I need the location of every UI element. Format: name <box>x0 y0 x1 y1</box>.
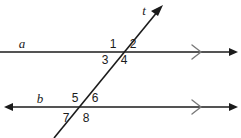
line-b-arrowhead-right <box>229 103 238 111</box>
angle-label-6: 6 <box>92 91 99 105</box>
angle-label-1: 1 <box>110 37 117 51</box>
figure-canvas: a b t 1 2 3 4 5 6 7 8 <box>0 0 241 138</box>
horizontal-line-a <box>0 45 238 59</box>
line-label-t: t <box>142 3 146 18</box>
geometry-figure: a b t 1 2 3 4 5 6 7 8 <box>0 0 241 138</box>
line-a-arrowhead-right <box>229 48 238 56</box>
angle-label-8: 8 <box>83 111 90 125</box>
angle-label-2: 2 <box>130 37 137 51</box>
angle-label-5: 5 <box>72 91 79 105</box>
line-label-a: a <box>19 36 26 51</box>
angle-label-7: 7 <box>63 111 70 125</box>
line-label-b: b <box>37 91 44 106</box>
angle-label-4: 4 <box>121 53 128 67</box>
transversal-line-t <box>54 5 163 138</box>
line-b-arrowhead-left <box>4 103 13 111</box>
line-t-arrowhead-right <box>151 5 163 16</box>
angle-label-3: 3 <box>102 53 109 67</box>
line-t-segment <box>54 11 158 138</box>
